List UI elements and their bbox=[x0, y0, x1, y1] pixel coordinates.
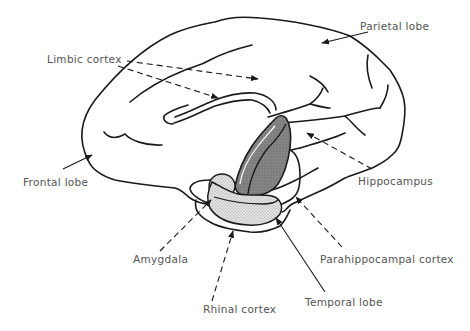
corpus-callosum-outer bbox=[175, 93, 276, 117]
sulcus-5 bbox=[380, 85, 388, 108]
sulcus-7 bbox=[367, 55, 372, 88]
frontal-leader bbox=[63, 155, 92, 169]
label-frontal-lobe: Frontal lobe bbox=[23, 177, 88, 188]
sulcus-8 bbox=[300, 133, 345, 148]
brain-diagram bbox=[0, 0, 470, 331]
label-limbic-cortex: Limbic cortex bbox=[47, 54, 122, 65]
corpus-callosum-inner bbox=[164, 105, 188, 124]
label-amygdala: Amygdala bbox=[133, 254, 188, 265]
hippocampus-leader bbox=[307, 133, 372, 169]
label-temporal-lobe: Temporal lobe bbox=[305, 297, 383, 308]
sulcus-1 bbox=[310, 76, 328, 92]
label-parahippocampal-cortex: Parahippocampal cortex bbox=[320, 254, 454, 265]
sulcus-6 bbox=[345, 116, 365, 135]
sulcus-3 bbox=[310, 104, 330, 108]
parahippocampal-leader bbox=[296, 197, 342, 247]
amygdala-leader bbox=[160, 200, 211, 251]
sulcus-2 bbox=[268, 88, 323, 117]
rhinal-leader bbox=[212, 231, 233, 301]
label-parietal-lobe: Parietal lobe bbox=[360, 21, 429, 32]
limbic-leader-2 bbox=[118, 66, 218, 98]
label-rhinal-cortex: Rhinal cortex bbox=[203, 304, 276, 315]
frontal-lower-outline bbox=[88, 160, 210, 204]
temporal-leader bbox=[276, 218, 325, 292]
cingulate-sulcus bbox=[130, 45, 252, 102]
label-hippocampus: Hippocampus bbox=[358, 176, 433, 187]
limbic-leader-1 bbox=[127, 61, 258, 79]
frontal-sulcus-1 bbox=[104, 132, 162, 145]
